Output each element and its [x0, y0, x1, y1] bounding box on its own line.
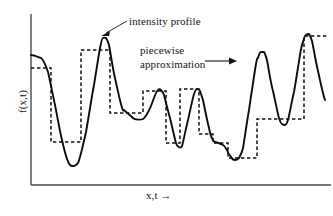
intensity-profile-arrowhead: [101, 31, 110, 36]
annotation-piecewise-line2: approximation: [140, 58, 205, 70]
annotation-piecewise-line1: piecewise: [140, 44, 184, 56]
intensity-profile-leader-line: [106, 21, 127, 33]
y-axis-label: f(x,t): [16, 72, 29, 132]
annotation-piecewise-approximation: piecewise approximation: [140, 43, 232, 71]
axes-group: [31, 14, 331, 185]
figure-container: intensity profile piecewise approximatio…: [0, 0, 333, 216]
annotation-intensity-profile: intensity profile: [129, 15, 201, 28]
figure-plot: [0, 0, 333, 216]
intensity-profile-leader: [101, 21, 127, 36]
x-axis-label: x,t →: [146, 189, 172, 202]
